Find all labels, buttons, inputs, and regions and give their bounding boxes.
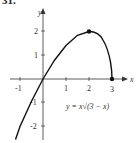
endpoint xyxy=(110,77,114,81)
x-axis-label: x xyxy=(129,75,134,84)
y-tick-label: 1 xyxy=(34,51,38,60)
x-tick-label: -1 xyxy=(15,84,22,93)
equation-label: y = x√(3 − x) xyxy=(65,102,110,111)
max-point xyxy=(87,29,91,33)
y-tick-label: 2 xyxy=(34,27,38,36)
x-axis-arrow-icon xyxy=(122,77,128,82)
function-graph: -1 1 2 3 2 1 -1 -2 x y y = x√(3 − x) xyxy=(0,0,137,143)
y-tick-label: -2 xyxy=(30,122,37,131)
x-tick-label: 3 xyxy=(110,85,114,94)
x-tick-label: 1 xyxy=(64,84,68,93)
y-axis-label: y xyxy=(37,8,42,17)
x-tick-label: 2 xyxy=(87,84,91,93)
